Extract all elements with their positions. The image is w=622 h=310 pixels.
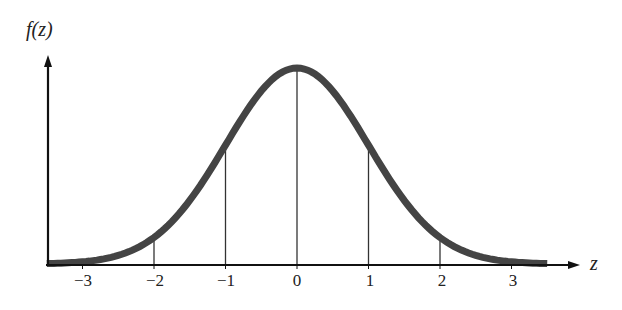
x-axis-label: z xyxy=(590,252,598,275)
tick-label: 0 xyxy=(293,271,302,291)
normal-curve-chart xyxy=(0,0,622,310)
tick-label: −3 xyxy=(74,271,92,291)
x-axis-arrow-icon xyxy=(568,261,580,269)
tick-label: −1 xyxy=(217,271,235,291)
tick-label: 1 xyxy=(366,271,375,291)
y-axis-label: f(z) xyxy=(26,18,53,41)
tick-label: 2 xyxy=(438,271,447,291)
y-axis-arrow-icon xyxy=(44,55,52,67)
vertical-reference-lines xyxy=(154,69,440,265)
tick-label: −2 xyxy=(146,271,164,291)
tick-label: 3 xyxy=(509,271,518,291)
